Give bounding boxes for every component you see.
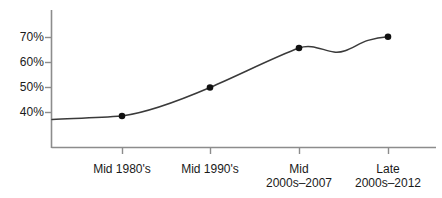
- data-point-4: [385, 34, 392, 41]
- data-point-3: [296, 45, 303, 52]
- y-tick-label-50: 50%: [2, 81, 44, 93]
- y-tick-label-50-wrap: 50%: [0, 81, 44, 93]
- data-line: [52, 37, 388, 120]
- data-point-2: [207, 84, 214, 91]
- x-tick-label-2-line1: Mid 1990's: [181, 162, 239, 176]
- y-tick-label-60: 60%: [2, 56, 44, 68]
- y-tick-label-70-wrap: 70%: [0, 31, 44, 43]
- x-tick-label-3-line1: Mid: [289, 162, 308, 176]
- x-tick-label-3-line2: 2000s–2007: [266, 176, 332, 190]
- y-tick-label-40-wrap: 40%: [0, 106, 44, 118]
- x-tick-label-4: Late 2000s–2012: [355, 162, 421, 190]
- y-tick-label-40: 40%: [2, 106, 44, 118]
- y-tick-label-60-wrap: 60%: [0, 56, 44, 68]
- x-tick-label-1: Mid 1980's: [93, 162, 151, 176]
- y-tick-label-70: 70%: [2, 31, 44, 43]
- x-tick-label-3: Mid 2000s–2007: [266, 162, 332, 190]
- x-tick-label-4-line1: Late: [376, 162, 399, 176]
- line-chart: 70% 60% 50% 40% Mid 1980's Mid 1990's Mi…: [0, 0, 442, 198]
- x-tick-label-4-line2: 2000s–2012: [355, 176, 421, 190]
- x-tick-label-2: Mid 1990's: [181, 162, 239, 176]
- data-point-1: [119, 113, 126, 120]
- x-tick-label-1-line1: Mid 1980's: [93, 162, 151, 176]
